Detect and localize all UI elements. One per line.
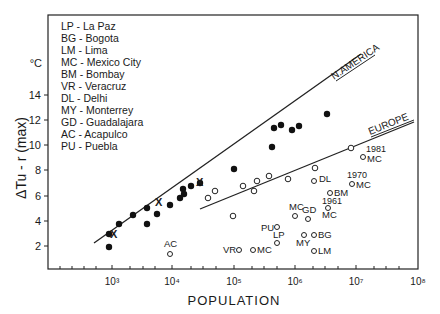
svg-text:MC: MC bbox=[367, 153, 382, 164]
y-tick-label: 8 bbox=[35, 164, 41, 176]
europe-points bbox=[205, 145, 354, 219]
x-axis-title: POPULATION bbox=[188, 293, 281, 308]
europe-regression-line bbox=[200, 122, 414, 209]
x-tick-label: 10⁷ bbox=[349, 276, 364, 287]
y-tick-label: 4 bbox=[35, 215, 41, 227]
svg-text:DL: DL bbox=[319, 173, 331, 184]
north-america-points bbox=[106, 111, 330, 250]
x-tick-label: 10³ bbox=[105, 276, 120, 287]
legend-item: BG - Bogota bbox=[61, 32, 119, 44]
y-unit-label: °C bbox=[30, 57, 42, 69]
y-axis-title: ΔTu - r (max) bbox=[13, 117, 29, 199]
y-tick-label: 10 bbox=[29, 139, 41, 151]
x-tick-label: 10⁴ bbox=[164, 276, 179, 287]
x-axis bbox=[60, 265, 399, 269]
x-tick-labels: 10³ 10⁴ 10⁵ 10⁶ 10⁷ 10⁸ POPULATION bbox=[105, 276, 426, 308]
legend-item: BM - Bombay bbox=[61, 68, 125, 80]
svg-text:MC: MC bbox=[356, 179, 371, 190]
svg-text:LM: LM bbox=[318, 245, 331, 256]
chart-svg: 14 12 10 8 6 4 2 °C ΔTu - r (max) 10³ 10… bbox=[0, 0, 440, 314]
legend-item: MC - Mexico City bbox=[61, 56, 142, 68]
svg-text:GD: GD bbox=[302, 204, 316, 215]
y-tick-label: 2 bbox=[35, 240, 41, 252]
svg-text:1961: 1961 bbox=[322, 196, 342, 206]
svg-text:X: X bbox=[155, 196, 163, 208]
legend-item: PU - Puebla bbox=[61, 140, 118, 152]
y-tick-label: 14 bbox=[29, 89, 41, 101]
legend-item: GD - Guadalajara bbox=[61, 116, 143, 128]
svg-text:MC: MC bbox=[322, 209, 337, 220]
legend-item: DL - Delhi bbox=[61, 92, 107, 104]
svg-text:X: X bbox=[110, 228, 118, 240]
svg-text:BG: BG bbox=[318, 229, 332, 240]
x-tick-label: 10⁵ bbox=[226, 276, 241, 287]
y-axis: 14 12 10 8 6 4 2 °C ΔTu - r (max) bbox=[13, 57, 48, 252]
svg-text:VR: VR bbox=[223, 244, 236, 255]
legend: LP - La Paz BG - Bogota LM - Lima MC - M… bbox=[61, 20, 143, 152]
x-tick-label: 10⁶ bbox=[287, 276, 302, 287]
north-america-label: N.AMERICA bbox=[329, 41, 381, 81]
svg-text:MY: MY bbox=[296, 237, 311, 248]
y-tick-label: 6 bbox=[35, 190, 41, 202]
svg-text:LP: LP bbox=[273, 229, 285, 240]
svg-text:X: X bbox=[196, 176, 204, 188]
city-labels: AC VR MC PU LP MC GD MY BG LM DL BM 1961… bbox=[164, 144, 386, 256]
legend-item: AC - Acapulco bbox=[61, 128, 128, 140]
legend-item: VR - Veracruz bbox=[61, 80, 126, 92]
x-tick-label: 10⁸ bbox=[410, 276, 425, 287]
legend-item: LP - La Paz bbox=[61, 20, 116, 32]
svg-text:AC: AC bbox=[164, 238, 177, 249]
legend-item: LM - Lima bbox=[61, 44, 108, 56]
legend-item: MY - Monterrey bbox=[61, 104, 134, 116]
svg-text:MC: MC bbox=[257, 244, 272, 255]
y-tick-label: 12 bbox=[29, 114, 41, 126]
